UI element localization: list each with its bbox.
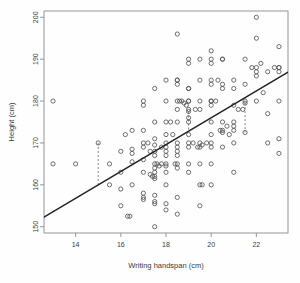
y-tick-label: 170 [32, 137, 39, 149]
x-tick-label: 18 [162, 241, 170, 248]
x-tick-label: 16 [117, 241, 125, 248]
x-tick-label: 20 [207, 241, 215, 248]
y-tick-label: 190 [32, 53, 39, 65]
x-axis-title: Writing handspan (cm) [128, 261, 204, 270]
plot-canvas: 1416182022 150160170180190200 Writing ha… [0, 0, 300, 283]
y-tick-label: 160 [32, 179, 39, 191]
y-tick-label: 180 [32, 95, 39, 107]
y-axis-title: Height (cm) [7, 102, 16, 141]
x-tick-label: 22 [252, 241, 260, 248]
y-tick-label: 150 [32, 221, 39, 233]
x-tick-label: 14 [72, 241, 80, 248]
scatter-plot-figure: 1416182022 150160170180190200 Writing ha… [0, 0, 300, 283]
y-tick-label: 200 [32, 11, 39, 23]
